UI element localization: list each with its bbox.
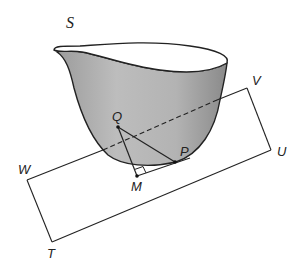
label-M: M [131, 179, 142, 194]
right-angle-marker [135, 167, 147, 174]
label-W: W [18, 162, 32, 177]
label-T: T [47, 246, 56, 261]
label-P: P [180, 144, 189, 159]
point-M [135, 174, 139, 178]
label-Q: Q [112, 109, 122, 124]
bowl-plane-diagram: S Q P M V U W T [0, 0, 303, 274]
label-V: V [252, 73, 262, 88]
point-Q [116, 125, 120, 129]
label-surface-S: S [66, 14, 74, 31]
diagram-canvas: S Q P M V U W T [0, 0, 303, 274]
point-P [173, 160, 177, 164]
label-U: U [277, 144, 287, 159]
